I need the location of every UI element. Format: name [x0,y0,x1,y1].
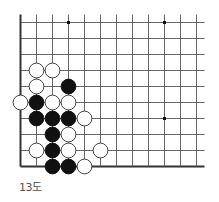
white-stone [61,143,76,158]
board-grid [21,15,205,167]
white-stone [45,95,60,110]
black-stone [45,159,60,174]
black-stone [45,143,60,158]
white-stone [29,143,44,158]
white-stone [29,79,44,94]
white-stone [61,127,76,142]
go-board [0,0,219,202]
white-stone [77,111,92,126]
black-stone [29,111,44,126]
black-stone [61,79,76,94]
black-stone [45,111,60,126]
white-stone [13,95,28,110]
black-stone [29,95,44,110]
white-stone [77,159,92,174]
diagram-caption: 13도 [19,178,42,194]
white-stone [45,63,60,78]
white-stone [61,95,76,110]
black-stone [45,127,60,142]
black-stone [61,111,76,126]
black-stone [61,159,76,174]
star-point [163,21,166,24]
white-stone [29,63,44,78]
star-point [67,21,70,24]
white-stone [93,143,108,158]
star-point [163,117,166,120]
